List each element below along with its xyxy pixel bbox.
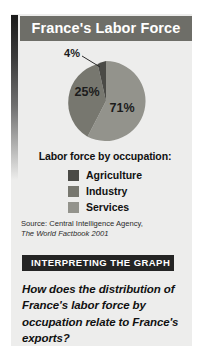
pie-leader-line-agriculture [82, 56, 100, 67]
pie-label-agriculture: 4% [64, 47, 80, 59]
pie-chart-svg: 4% 25% 71% [18, 44, 192, 148]
legend-item-agriculture: Agriculture [68, 168, 192, 183]
interpreting-the-graph-heading: INTERPRETING THE GRAPH [31, 258, 170, 268]
legend-item-industry: Industry [68, 184, 192, 199]
figure-panel: France's Labor Force 4% 25% 71% Labor fo… [0, 0, 203, 351]
legend-title: Labor force by occupation: [18, 150, 192, 162]
pie-chart: 4% 25% 71% [18, 44, 192, 148]
legend-label-industry: Industry [86, 186, 127, 197]
figure-title-banner: France's Labor Force [20, 16, 192, 41]
chart-source: Source: Central Intelligence Agency, The… [21, 219, 191, 240]
chart-legend: Labor force by occupation: Agriculture I… [18, 150, 192, 216]
legend-label-agriculture: Agriculture [86, 170, 142, 181]
legend-item-services: Services [68, 200, 192, 215]
legend-items: Agriculture Industry Services [18, 168, 192, 215]
legend-label-services: Services [86, 202, 129, 213]
source-line-1: Source: Central Intelligence Agency, [21, 219, 191, 229]
legend-swatch-agriculture [68, 170, 79, 181]
left-gradient-rule [11, 15, 18, 180]
interpreting-question: How does the distribution of France's la… [22, 281, 190, 346]
legend-swatch-services [68, 202, 79, 213]
source-line-2: The World Factbook 2001 [21, 229, 191, 239]
legend-swatch-industry [68, 186, 79, 197]
pie-label-industry: 25% [74, 85, 99, 99]
figure-title: France's Labor Force [32, 21, 181, 36]
pie-label-services: 71% [109, 101, 134, 115]
interpreting-the-graph-bar: INTERPRETING THE GRAPH [22, 255, 174, 271]
